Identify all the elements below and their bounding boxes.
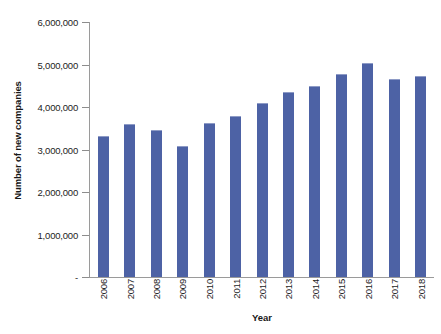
y-tick-label: 4,000,000	[38, 102, 78, 113]
x-tick-label: 2011	[229, 279, 243, 311]
x-tick-label-text: 2016	[363, 279, 374, 299]
bar[interactable]	[389, 79, 400, 277]
bar-slot	[177, 22, 188, 277]
y-tick-mark	[82, 150, 89, 151]
bar[interactable]	[177, 146, 188, 277]
y-tick-mark	[82, 192, 89, 193]
x-tick-label: 2012	[255, 279, 269, 311]
x-axis-title: Year	[90, 312, 434, 323]
x-tick-label-text: 2015	[336, 279, 347, 299]
x-tick-label-text: 2013	[283, 279, 294, 299]
x-tick-label-text: 2007	[125, 279, 136, 299]
bar[interactable]	[151, 130, 162, 277]
y-tick-label: 6,000,000	[38, 17, 78, 28]
bar[interactable]	[257, 103, 268, 277]
x-tick-label-text: 2009	[177, 279, 188, 299]
x-tick-label: 2006	[96, 279, 110, 311]
x-tick-label-text: 2006	[98, 279, 109, 299]
y-tick-mark	[82, 22, 89, 23]
bar[interactable]	[230, 116, 241, 277]
x-tick-label: 2007	[123, 279, 137, 311]
bar[interactable]	[309, 86, 320, 277]
x-tick-label-text: 2018	[416, 279, 427, 299]
x-tick-label-text: 2008	[151, 279, 162, 299]
bar[interactable]	[336, 74, 347, 277]
x-tick-label-text: 2011	[231, 279, 242, 299]
y-tick-label: 3,000,000	[38, 144, 78, 155]
y-tick-label: 5,000,000	[38, 59, 78, 70]
bar-chart: Number of new companies -1,000,0002,000,…	[0, 0, 441, 334]
x-tick-label: 2013	[281, 279, 295, 311]
y-tick-mark	[82, 107, 89, 108]
x-axis-tick-labels: 2006200720082009201020112012201320142015…	[90, 279, 434, 311]
bar[interactable]	[98, 136, 109, 277]
bar-slot	[151, 22, 162, 277]
bar-slot	[309, 22, 320, 277]
y-axis-tick-labels: -1,000,0002,000,0003,000,0004,000,0005,0…	[26, 0, 82, 334]
bar-slot	[362, 22, 373, 277]
bar[interactable]	[362, 63, 373, 277]
bar-slot	[124, 22, 135, 277]
bar-slot	[283, 22, 294, 277]
x-tick-label-text: 2017	[389, 279, 400, 299]
plot-area	[90, 22, 434, 277]
x-tick-label-text: 2012	[257, 279, 268, 299]
bar[interactable]	[283, 92, 294, 277]
y-tick-label: -	[75, 272, 78, 283]
y-tick-mark	[82, 235, 89, 236]
y-tick-label: 2,000,000	[38, 187, 78, 198]
x-tick-label: 2017	[387, 279, 401, 311]
y-tick-mark	[82, 65, 89, 66]
x-tick-label: 2008	[149, 279, 163, 311]
x-tick-label: 2015	[334, 279, 348, 311]
y-axis-title-label: Number of new companies	[12, 81, 23, 200]
bar-slot	[389, 22, 400, 277]
x-tick-label: 2009	[176, 279, 190, 311]
bar-slot	[257, 22, 268, 277]
x-tick-label: 2016	[361, 279, 375, 311]
y-axis-title: Number of new companies	[8, 0, 26, 280]
x-tick-label: 2010	[202, 279, 216, 311]
x-tick-label: 2018	[414, 279, 428, 311]
bar-slot	[230, 22, 241, 277]
bar[interactable]	[204, 123, 215, 277]
bar[interactable]	[415, 76, 426, 277]
bar-slot	[204, 22, 215, 277]
y-tick-mark	[82, 277, 89, 278]
bar-slot	[336, 22, 347, 277]
x-tick-label-text: 2010	[204, 279, 215, 299]
y-tick-label: 1,000,000	[38, 229, 78, 240]
x-tick-label: 2014	[308, 279, 322, 311]
x-tick-label-text: 2014	[310, 279, 321, 299]
bar-slot	[415, 22, 426, 277]
x-axis-line	[82, 277, 434, 278]
bar-slot	[98, 22, 109, 277]
bar[interactable]	[124, 124, 135, 277]
